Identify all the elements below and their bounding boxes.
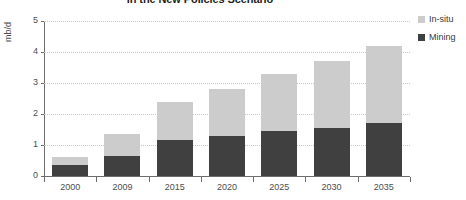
x-tick-label: 2025 (249, 183, 309, 192)
bar-stack (366, 46, 402, 176)
plot-area (44, 21, 410, 176)
x-tick-label: 2015 (145, 183, 205, 192)
bar-segment-in-situ (209, 89, 245, 136)
bar-segment-in-situ (314, 61, 350, 128)
x-tick-label: 2035 (354, 183, 414, 192)
x-tick-label: 2009 (92, 183, 152, 192)
legend-label: Mining (429, 33, 456, 42)
x-tick-mark (410, 177, 411, 182)
x-tick-mark (149, 177, 150, 182)
chart-container: in the New Policies Scenario mb/d 012345… (0, 0, 466, 200)
x-tick-mark (305, 177, 306, 182)
y-tick-mark (41, 52, 44, 53)
bar-stack (52, 157, 88, 176)
bar-segment-mining (52, 165, 88, 176)
bar-segment-mining (104, 156, 140, 176)
y-tick-label: 3 (12, 78, 38, 87)
x-tick-mark (201, 177, 202, 182)
y-tick-label: 2 (12, 109, 38, 118)
bar-segment-in-situ (261, 74, 297, 131)
bar-segment-mining (314, 128, 350, 176)
bar-segment-mining (209, 136, 245, 176)
x-tick-label: 2000 (40, 183, 100, 192)
legend-swatch-icon (418, 34, 425, 41)
bar-segment-mining (261, 131, 297, 176)
x-tick-label: 2030 (302, 183, 362, 192)
bar-stack (104, 134, 140, 176)
x-tick-mark (253, 177, 254, 182)
y-tick-mark (41, 114, 44, 115)
legend-item[interactable]: Mining (418, 33, 466, 42)
x-tick-mark (44, 177, 45, 182)
bar-segment-mining (157, 140, 193, 176)
axis-baseline (44, 176, 410, 177)
bar-series-group (44, 21, 410, 176)
bar-segment-in-situ (366, 46, 402, 124)
y-tick-label: 1 (12, 140, 38, 149)
bar-stack (261, 74, 297, 176)
bar-segment-in-situ (52, 157, 88, 165)
legend-label: In-situ (429, 15, 454, 24)
legend-swatch-icon (418, 16, 425, 23)
y-tick-mark (41, 21, 44, 22)
chart-legend: In-situMining (418, 15, 466, 51)
bar-stack (314, 61, 350, 176)
bar-stack (157, 102, 193, 176)
y-tick-label: 0 (12, 171, 38, 180)
x-tick-label: 2020 (197, 183, 257, 192)
legend-item[interactable]: In-situ (418, 15, 466, 24)
x-tick-mark (96, 177, 97, 182)
x-tick-mark (358, 177, 359, 182)
bar-stack (209, 89, 245, 176)
y-tick-label: 4 (12, 47, 38, 56)
bar-segment-mining (366, 123, 402, 176)
y-tick-mark (41, 83, 44, 84)
bar-segment-in-situ (157, 102, 193, 141)
chart-title: in the New Policies Scenario (0, 0, 400, 5)
y-tick-mark (41, 145, 44, 146)
y-tick-label: 5 (12, 16, 38, 25)
bar-segment-in-situ (104, 134, 140, 156)
